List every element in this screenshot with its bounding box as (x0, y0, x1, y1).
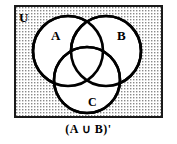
set-label-b: B (117, 29, 126, 42)
figure-caption: (A ∪ B)' (0, 122, 177, 136)
universal-set-label: U (19, 11, 28, 24)
venn-diagram-figure: U A B C (A ∪ B)' (0, 0, 177, 144)
set-label-a: A (51, 29, 60, 42)
set-label-c: C (88, 96, 97, 108)
